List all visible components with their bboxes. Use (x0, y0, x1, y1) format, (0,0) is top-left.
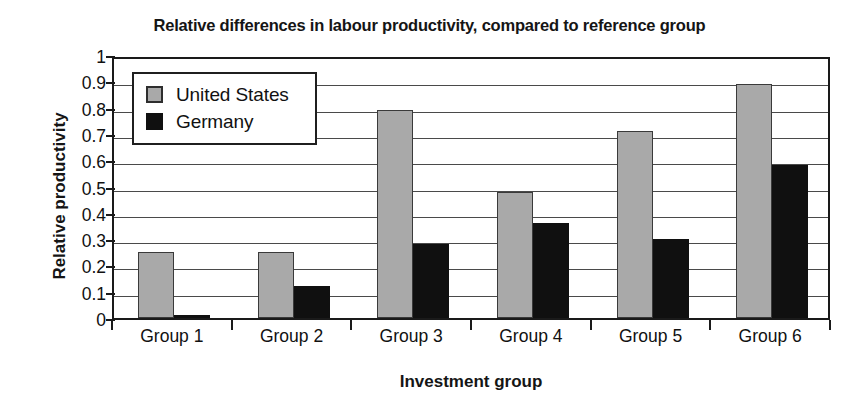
x-axis-tick-mark (350, 320, 352, 330)
y-axis-tick-mark (106, 161, 115, 163)
y-axis-tick-mark (106, 188, 115, 190)
y-axis-tick-mark (106, 56, 115, 58)
x-axis-tick-label: Group 6 (710, 326, 830, 360)
plot-area: United StatesGermany (112, 57, 830, 320)
x-axis-tick-mark (590, 320, 592, 330)
bar (413, 244, 449, 318)
legend-label: Germany (176, 111, 253, 133)
legend-swatch-icon (146, 113, 163, 130)
bar (138, 252, 174, 318)
x-axis-tick-label: Group 1 (112, 326, 232, 360)
y-axis-tick-mark (106, 82, 115, 84)
y-axis-tick-label: 0.7 (42, 125, 106, 146)
chart-legend: United StatesGermany (132, 72, 317, 145)
x-axis-tick-mark (709, 320, 711, 330)
y-axis-tick-label: 1 (42, 47, 106, 68)
bar (772, 165, 808, 318)
y-axis-tick-label: 0.6 (42, 152, 106, 173)
bar (533, 223, 569, 318)
x-axis-tick-mark (829, 320, 831, 330)
y-axis-tick-label: 0.9 (42, 73, 106, 94)
bar (258, 252, 294, 318)
y-axis-tick-label: 0 (42, 310, 106, 331)
bar (294, 286, 330, 318)
y-axis-tick-mark (106, 240, 115, 242)
legend-item: Germany (146, 108, 289, 135)
y-axis-tick-label: 0.3 (42, 231, 106, 252)
x-axis-title: Investment group (112, 372, 830, 392)
y-axis-tick-mark (106, 135, 115, 137)
x-axis-tick-label: Group 5 (591, 326, 711, 360)
y-axis-tick-mark (106, 293, 115, 295)
bar (653, 239, 689, 318)
y-axis-tick-mark (106, 109, 115, 111)
x-axis-tick-mark (470, 320, 472, 330)
y-axis-tick-label: 0.8 (42, 99, 106, 120)
bar (736, 84, 772, 318)
x-axis-tick-labels: Group 1Group 2Group 3Group 4Group 5Group… (112, 326, 830, 360)
y-axis-tick-label: 0.5 (42, 178, 106, 199)
legend-label: United States (176, 84, 289, 106)
bar (617, 131, 653, 318)
y-axis-tick-label: 0.4 (42, 204, 106, 225)
x-axis-tick-label: Group 2 (232, 326, 352, 360)
y-axis-tick-mark (106, 266, 115, 268)
y-axis-tick-mark (106, 214, 115, 216)
x-axis-tick-mark (111, 320, 113, 330)
bar (174, 315, 210, 318)
y-axis-tick-label: 0.2 (42, 257, 106, 278)
legend-item: United States (146, 81, 289, 108)
bar (377, 110, 413, 318)
y-axis-tick-label: 0.1 (42, 283, 106, 304)
x-axis-tick-label: Group 4 (471, 326, 591, 360)
legend-swatch-icon (146, 86, 163, 103)
bar (497, 192, 533, 318)
x-axis-tick-label: Group 3 (351, 326, 471, 360)
y-axis-tick-labels: 10.90.80.70.60.50.40.30.20.10 (36, 57, 106, 320)
chart-title: Relative differences in labour productiv… (0, 16, 859, 35)
chart-figure: Relative differences in labour productiv… (0, 0, 859, 407)
x-axis-tick-mark (231, 320, 233, 330)
